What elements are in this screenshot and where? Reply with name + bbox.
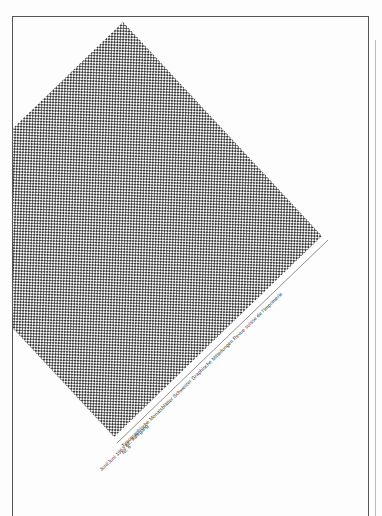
checker-diamond [0, 0, 382, 516]
cover-page: Typographische Monatsblätter Schweizer G… [0, 0, 382, 516]
